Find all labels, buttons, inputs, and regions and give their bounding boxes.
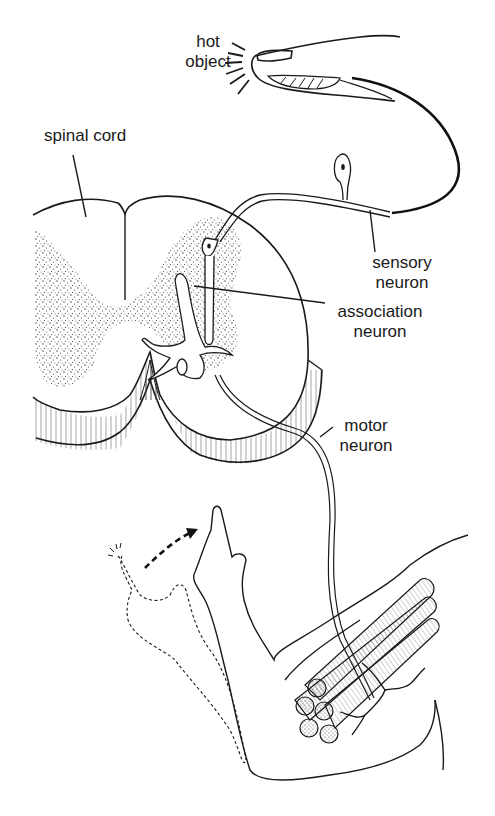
hot-finger-illustration bbox=[252, 36, 400, 101]
label-hot-object-line1: hot bbox=[178, 32, 238, 52]
label-association-neuron: association neuron bbox=[330, 302, 430, 342]
label-spinal-cord-text: spinal cord bbox=[44, 126, 126, 145]
label-hot-object: hot object bbox=[178, 32, 238, 72]
reflex-arc-diagram: hot object spinal cord sensory neuron as… bbox=[0, 0, 495, 816]
diagram-canvas bbox=[0, 0, 495, 816]
label-sensory-neuron-line2: neuron bbox=[362, 273, 442, 293]
spinal-cord-section bbox=[33, 196, 322, 463]
label-hot-object-line2: object bbox=[178, 52, 238, 72]
label-association-neuron-line2: neuron bbox=[330, 322, 430, 342]
label-sensory-neuron: sensory neuron bbox=[362, 253, 442, 293]
label-association-neuron-line1: association bbox=[330, 302, 430, 322]
label-sensory-neuron-line1: sensory bbox=[362, 253, 442, 273]
previous-hand-outline bbox=[118, 556, 246, 763]
label-motor-neuron-line1: motor bbox=[333, 416, 399, 436]
label-spinal-cord: spinal cord bbox=[44, 126, 126, 146]
label-motor-neuron: motor neuron bbox=[333, 416, 399, 456]
movement-arrow-icon bbox=[145, 528, 198, 568]
small-heat-rays-icon bbox=[108, 543, 121, 556]
muscle-bundle bbox=[295, 579, 439, 743]
label-motor-neuron-line2: neuron bbox=[333, 436, 399, 456]
